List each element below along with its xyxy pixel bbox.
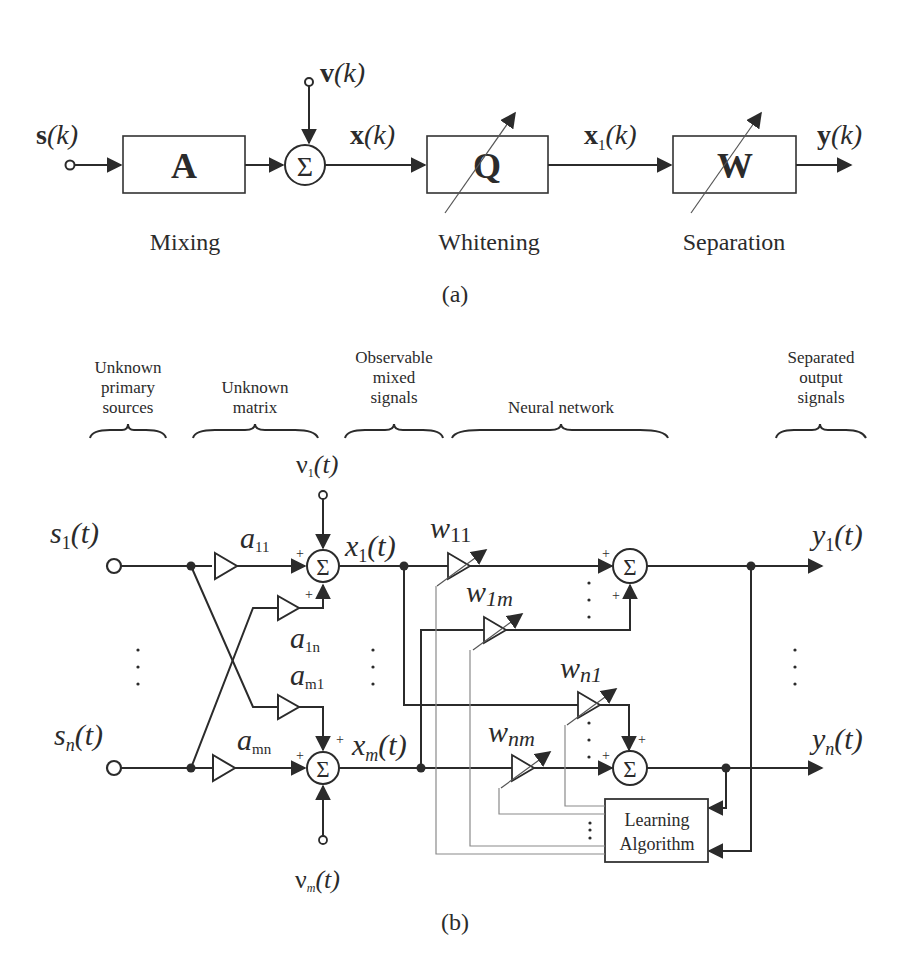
panel-b-caption: (b) xyxy=(441,909,469,935)
vertical-ellipsis xyxy=(793,648,796,685)
input-terminal xyxy=(66,161,75,170)
header-observable-line1: Observable xyxy=(355,348,432,367)
adaptation-wires xyxy=(436,586,605,854)
weight-label-wnm: wnm xyxy=(488,715,535,751)
noise-terminal-1 xyxy=(319,491,327,499)
vertical-ellipsis xyxy=(587,721,590,758)
adaptive-arrow-icon xyxy=(501,752,550,788)
weight-label-wn1: wn1 xyxy=(560,651,602,687)
vertical-ellipsis xyxy=(136,648,139,685)
feedback-yn xyxy=(709,768,726,808)
caption-whitening: Whitening xyxy=(438,229,539,255)
panel-b: Unknown primary sources Unknown matrix O… xyxy=(50,348,866,935)
sum-icon: Σ xyxy=(623,757,636,782)
header-neural-network: Neural network xyxy=(508,398,615,417)
panel-a-caption: (a) xyxy=(442,281,469,307)
input-label-s: s(k) xyxy=(36,119,78,150)
source-label-s1: s1(t) xyxy=(50,516,99,553)
header-observable-line2: mixed xyxy=(373,368,416,387)
header-observable-line3: signals xyxy=(370,388,417,407)
learning-line1: Learning xyxy=(625,810,690,830)
mixed-label-x: x(k) xyxy=(350,119,395,150)
brace-observable xyxy=(345,424,443,438)
noise-label-v1: ν1(t) xyxy=(296,450,338,480)
gain-a1n-icon xyxy=(278,596,299,620)
gain-am1-icon xyxy=(278,695,299,719)
gain-label-am1: am1 xyxy=(290,658,324,692)
gain-amn-icon xyxy=(213,755,235,781)
brace-neural xyxy=(452,424,668,438)
header-matrix-line1: Unknown xyxy=(221,378,289,397)
header-sources-line1: Unknown xyxy=(94,358,162,377)
mixed-label-x1: x1(t) xyxy=(344,529,396,566)
header-separated-line3: signals xyxy=(797,388,844,407)
panel-a: s(k) A Σ v(k) x(k) Q x1(k) W y(k) Mixing xyxy=(36,57,862,307)
header-separated-line2: output xyxy=(799,368,843,387)
adaptive-arrow-icon xyxy=(473,614,522,650)
weight-label-w1m: w1m xyxy=(466,575,513,611)
plus-sign: + xyxy=(336,732,344,747)
vertical-ellipsis xyxy=(587,581,590,618)
sum-icon: Σ xyxy=(297,151,313,182)
caption-mixing: Mixing xyxy=(150,229,221,255)
gain-label-a11: a11 xyxy=(240,521,269,555)
source-terminal-1 xyxy=(107,559,121,573)
plus-sign: + xyxy=(602,546,610,561)
header-matrix-line2: matrix xyxy=(233,398,278,417)
gain-a11-icon xyxy=(215,553,237,579)
ica-block-diagram: s(k) A Σ v(k) x(k) Q x1(k) W y(k) Mixing xyxy=(0,0,910,968)
adaptive-arrow-icon xyxy=(567,689,616,725)
header-separated-line1: Separated xyxy=(787,348,855,367)
noise-label-v: v(k) xyxy=(320,57,365,88)
plus-sign: + xyxy=(602,748,610,763)
wire-s1-to-am1 xyxy=(191,566,278,707)
sum-icon: Σ xyxy=(316,555,329,580)
weight-label-w11: w11 xyxy=(430,511,471,547)
sum-icon: Σ xyxy=(316,757,329,782)
header-sources-line2: primary xyxy=(101,378,155,397)
plus-sign: + xyxy=(305,587,313,602)
sum-icon: Σ xyxy=(623,555,636,580)
header-sources-line3: sources xyxy=(103,398,154,417)
gain-label-amn: amn xyxy=(237,723,272,757)
source-label-sn: sn(t) xyxy=(54,718,103,755)
gain-label-a1n: a1n xyxy=(290,621,321,655)
vertical-ellipsis xyxy=(588,821,591,839)
output-label-y: y(k) xyxy=(817,119,862,150)
noise-label-vm: νm(t) xyxy=(295,865,340,895)
learning-line2: Algorithm xyxy=(620,834,695,854)
mixed-label-xm: xm(t) xyxy=(351,728,407,765)
block-A-symbol: A xyxy=(171,146,197,186)
plus-sign: + xyxy=(612,588,620,603)
output-label-yn: yn(t) xyxy=(809,722,863,759)
block-W-symbol: W xyxy=(717,146,753,186)
plus-sign: + xyxy=(296,748,304,763)
plus-sign: + xyxy=(296,546,304,561)
vertical-ellipsis xyxy=(371,648,374,685)
noise-terminal-m xyxy=(319,836,327,844)
source-terminal-n xyxy=(107,761,121,775)
whitened-label-x1: x1(k) xyxy=(584,119,637,153)
brace-sources xyxy=(90,424,166,438)
output-label-y1: y1(t) xyxy=(809,518,863,555)
caption-separation: Separation xyxy=(683,229,786,255)
noise-terminal xyxy=(305,78,313,86)
plus-sign: + xyxy=(638,732,646,747)
brace-matrix xyxy=(193,424,318,438)
brace-separated xyxy=(776,424,866,438)
